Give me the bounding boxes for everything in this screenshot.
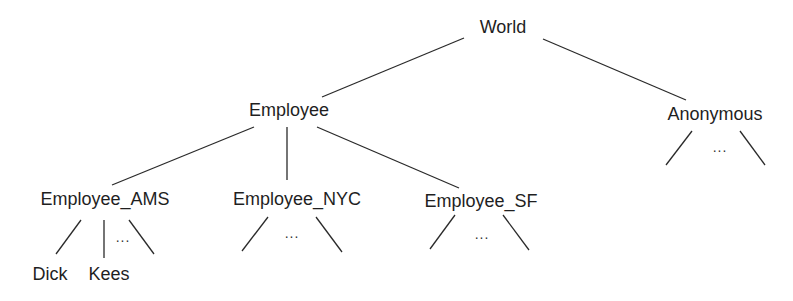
ellipsis-anonymous: ... (713, 139, 728, 155)
edge-world-anonymous (543, 39, 686, 100)
edge-nyc-right (316, 217, 342, 252)
edge-sf-right (503, 215, 529, 250)
edge-ams-more (129, 220, 154, 254)
edge-world-employee (322, 38, 464, 97)
edge-anonymous-right (740, 131, 765, 165)
hierarchy-tree-diagram: World Employee Anonymous Employee_AMS Em… (0, 0, 793, 301)
node-employee-sf: Employee_SF (424, 191, 537, 211)
edge-anonymous-left (666, 131, 692, 165)
ellipsis-ams: ... (116, 229, 131, 245)
ellipsis-sf: ... (475, 226, 490, 242)
edge-employee-sf (317, 127, 459, 188)
node-dick: Dick (33, 264, 68, 284)
ellipsis-nyc: ... (285, 225, 300, 241)
node-employee-ams: Employee_AMS (40, 189, 169, 209)
node-employee: Employee (249, 100, 329, 120)
node-anonymous: Anonymous (667, 104, 762, 124)
node-kees: Kees (88, 264, 129, 284)
edge-nyc-left (242, 217, 268, 251)
node-world: World (480, 17, 527, 37)
edge-sf-left (430, 215, 455, 249)
tree-edges (0, 0, 793, 301)
edge-employee-ams (112, 127, 254, 185)
edge-ams-dick (56, 220, 81, 254)
node-employee-nyc: Employee_NYC (233, 189, 361, 209)
